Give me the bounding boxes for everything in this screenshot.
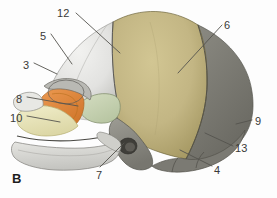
- label-8: 8: [16, 94, 22, 105]
- leader-line-5: [51, 34, 72, 64]
- figure-panel-b: 12 5 3 6 8 10 9 13 4 7 B: [0, 0, 277, 198]
- label-9: 9: [255, 116, 261, 127]
- label-7: 7: [96, 170, 102, 181]
- meatus-highlight: [125, 143, 135, 152]
- label-3: 3: [23, 60, 29, 71]
- label-10: 10: [10, 113, 23, 124]
- panel-letter-b: B: [12, 172, 21, 185]
- label-12: 12: [57, 8, 70, 19]
- alveolar-ridge: [17, 134, 110, 141]
- label-4: 4: [214, 165, 220, 176]
- label-13: 13: [235, 143, 248, 154]
- label-5: 5: [40, 31, 46, 42]
- leader-line-3: [34, 63, 57, 74]
- label-6: 6: [224, 20, 230, 31]
